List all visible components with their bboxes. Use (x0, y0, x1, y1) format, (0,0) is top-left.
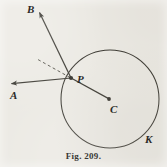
label-point-a: A (10, 90, 17, 101)
dashed-auxiliary-ray (37, 59, 70, 78)
label-point-c: C (110, 104, 117, 115)
label-point-p: P (77, 74, 84, 85)
point-p-dot (69, 76, 73, 80)
point-c-dot (107, 97, 111, 101)
ray-p-to-b (40, 13, 72, 79)
label-circle-k: K (145, 134, 152, 145)
ray-p-to-a (12, 78, 72, 84)
figure-caption: Fig. 209. (0, 151, 167, 161)
figure-page: B A P C K Fig. 209. (0, 0, 167, 167)
label-point-b: B (27, 4, 34, 15)
